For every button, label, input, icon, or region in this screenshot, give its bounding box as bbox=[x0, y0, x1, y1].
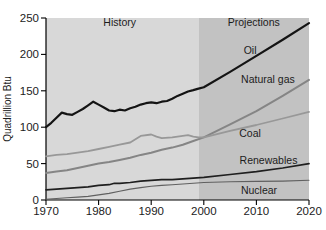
energy-outlook-figure: 050100150200250197019801990200020102020O… bbox=[0, 0, 326, 230]
y-tick-label: 200 bbox=[20, 48, 39, 60]
region-label-history: History bbox=[103, 16, 136, 28]
x-tick-label: 1990 bbox=[138, 205, 164, 217]
energy-consumption-chart: 050100150200250197019801990200020102020O… bbox=[0, 0, 326, 230]
x-tick-label: 2020 bbox=[296, 205, 322, 217]
x-tick-label: 2010 bbox=[244, 205, 270, 217]
series-label-natural-gas: Natural gas bbox=[241, 73, 295, 85]
x-tick-label: 1980 bbox=[86, 205, 112, 217]
x-tick-label: 2000 bbox=[191, 205, 217, 217]
series-label-coal: Coal bbox=[239, 127, 261, 139]
series-label-oil: Oil bbox=[244, 44, 257, 56]
y-tick-label: 250 bbox=[20, 12, 39, 24]
y-tick-label: 100 bbox=[20, 121, 39, 133]
y-tick-label: 50 bbox=[26, 158, 39, 170]
series-label-renewables: Renewables bbox=[240, 154, 298, 166]
x-tick-label: 1970 bbox=[33, 205, 59, 217]
region-label-projections: Projections bbox=[228, 16, 280, 28]
y-axis-title: Quadrillion Btu bbox=[2, 76, 13, 142]
y-tick-label: 150 bbox=[20, 85, 39, 97]
series-label-nuclear: Nuclear bbox=[241, 184, 278, 196]
